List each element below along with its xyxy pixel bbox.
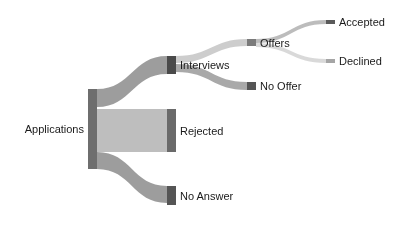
node-label-accepted: Accepted xyxy=(339,16,385,28)
node-label-applications: Applications xyxy=(25,123,85,135)
node-label-interviews: Interviews xyxy=(180,59,230,71)
node-label-declined: Declined xyxy=(339,55,382,67)
flow-applications-to-no-answer xyxy=(97,152,167,203)
node-label-offers: Offers xyxy=(260,37,290,49)
node-interviews xyxy=(167,56,176,74)
flow-applications-to-interviews xyxy=(97,56,167,107)
node-offers xyxy=(247,39,256,46)
node-declined xyxy=(326,59,335,63)
node-label-no-answer: No Answer xyxy=(180,190,234,202)
node-accepted xyxy=(326,20,335,24)
node-applications xyxy=(88,89,97,169)
node-rejected xyxy=(167,109,176,152)
sankey-diagram: ApplicationsInterviewsRejectedNo AnswerO… xyxy=(0,0,411,227)
node-label-no-offer: No Offer xyxy=(260,80,302,92)
node-label-rejected: Rejected xyxy=(180,125,223,137)
node-no-offer xyxy=(247,82,256,90)
sankey-labels: ApplicationsInterviewsRejectedNo AnswerO… xyxy=(25,16,385,202)
node-no-answer xyxy=(167,186,176,205)
flow-applications-to-rejected xyxy=(97,109,167,152)
sankey-links xyxy=(97,20,326,203)
